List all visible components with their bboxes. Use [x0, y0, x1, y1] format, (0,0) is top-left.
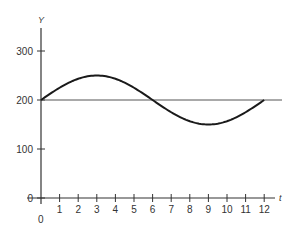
origin-label: 0: [38, 214, 44, 225]
x-tick-label: 1: [57, 204, 63, 215]
x-axis-title: t: [279, 193, 282, 203]
x-tick-label: 7: [168, 204, 174, 215]
x-tick-label: 11: [240, 204, 251, 215]
x-tick-label: 5: [131, 204, 137, 215]
x-tick-label: 2: [75, 204, 81, 215]
x-tick-label: 6: [150, 204, 156, 215]
x-tick-label: 9: [206, 204, 212, 215]
y-tick-label: 100: [16, 144, 33, 155]
x-tick-label: 4: [113, 204, 119, 215]
x-tick-label: 10: [221, 204, 233, 215]
x-tick-label: 3: [94, 204, 100, 215]
y-tick-label: 200: [16, 95, 33, 106]
x-tick-label: 12: [259, 204, 271, 215]
sinusoid-chart: Y 0100200300 t 0 123456789101112: [0, 0, 298, 233]
y-tick-label: 300: [16, 46, 33, 57]
y-axis-title: Y: [38, 15, 45, 25]
y-axis: Y: [38, 15, 45, 204]
x-ticks: 123456789101112: [57, 194, 270, 215]
x-tick-label: 8: [187, 204, 193, 215]
